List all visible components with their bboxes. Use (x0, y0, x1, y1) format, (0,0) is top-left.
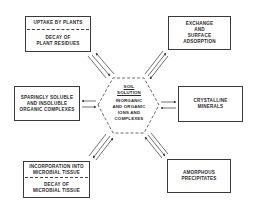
soil-solution-diagram: SOIL SOLUTION INORGANIC AND ORGANIC IONS… (0, 0, 255, 208)
arrow-top-right (145, 51, 168, 79)
soil-solution-label: SOIL SOLUTION INORGANIC AND ORGANIC IONS… (104, 84, 154, 122)
decay-plant-line-2: PLANT RESIDUES (37, 41, 80, 47)
arrow-bottom-left (89, 134, 113, 160)
node-amorphous-precipitates: AMORPHOUS PRECIPITATES (167, 159, 231, 193)
crystalline-line-2: MINERALS (198, 104, 224, 110)
center-body-line-4: COMPLEXES (104, 116, 154, 122)
incorporation-line-2: MICROBIAL TISSUE (33, 170, 80, 176)
arrow-top-left (88, 53, 114, 78)
node-organic-complexes: SPARINGLY SOLUBLE AND INSOLUBLE ORGANIC … (14, 86, 80, 121)
uptake-by-plants-label: UPTAKE BY PLANTS (34, 20, 83, 26)
organic-line-3: ORGANIC COMPLEXES (19, 107, 74, 113)
arrow-bottom-right (145, 133, 168, 158)
node-plant-uptake-decay: UPTAKE BY PLANTS DECAY OF PLANT RESIDUES (25, 16, 91, 52)
node-exchange-adsorption: EXCHANGE AND SURFACE ADSORPTION (168, 16, 231, 50)
exchange-line-4: ADSORPTION (183, 39, 216, 45)
amorphous-line-2: PRECIPITATES (181, 176, 216, 182)
decay-microbial-line-2: MICROBIAL TISSUE (33, 188, 80, 194)
node-crystalline-minerals: CRYSTALLINE MINERALS (178, 86, 243, 122)
arrow-mid-right (161, 102, 176, 108)
arrow-mid-left (82, 101, 96, 107)
node-microbial-tissue: INCORPORATION INTO MICROBIAL TISSUE DECA… (23, 161, 90, 198)
